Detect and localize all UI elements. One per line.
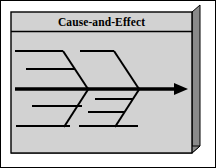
cause-and-effect-figure: Cause-and-Effect: [0, 0, 216, 168]
fishbone-diagram-canvas: [0, 0, 216, 168]
panel-shadow-right-face: [192, 5, 200, 153]
panel-face: [11, 12, 192, 153]
